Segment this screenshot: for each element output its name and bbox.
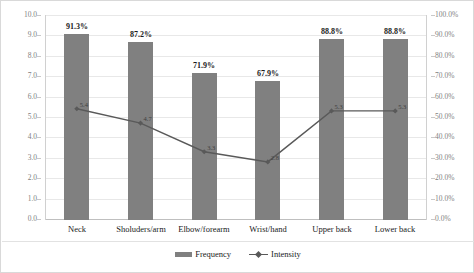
- line-value-label: 4.7: [144, 115, 152, 122]
- tick-mark: [431, 178, 435, 179]
- line-value-label: 5.3: [398, 103, 406, 110]
- tick-mark: [37, 117, 41, 118]
- tick-mark: [37, 56, 41, 57]
- x-tick-label: Upper back: [300, 223, 364, 235]
- line-value-label: 3.3: [207, 144, 215, 151]
- legend-label-intensity: Intensity: [271, 249, 301, 259]
- y-tick-right: 40.0%: [435, 133, 454, 141]
- y-tick-left: 10.0: [24, 11, 37, 19]
- tick-mark: [431, 35, 435, 36]
- y-tick-left: 3.0: [28, 154, 37, 162]
- tick-mark: [37, 178, 41, 179]
- tick-mark: [431, 76, 435, 77]
- tick-mark: [431, 56, 435, 57]
- line-value-label: 5.4: [80, 101, 88, 108]
- y-tick-right: 50.0%: [435, 113, 454, 121]
- x-tick-label: Wrist/hand: [236, 223, 300, 235]
- chart-legend: Frequency Intensity: [1, 246, 474, 262]
- x-tick-label: Lower back: [363, 223, 427, 235]
- y-tick-left: 2.0: [28, 174, 37, 182]
- y-tick-right: 10.0%: [435, 195, 454, 203]
- tick-mark: [431, 137, 435, 138]
- y-tick-right: 20.0%: [435, 174, 454, 182]
- y-tick-left: 7.0: [28, 72, 37, 80]
- y-tick-left: 9.0: [28, 31, 37, 39]
- tick-mark: [431, 15, 435, 16]
- tick-mark: [37, 76, 41, 77]
- line-value-label: 5.3: [335, 103, 343, 110]
- bar-swatch-icon: [175, 252, 192, 257]
- x-tick-label: Sholuders/arm: [109, 223, 173, 235]
- legend-item-intensity: Intensity: [249, 249, 301, 259]
- tick-mark: [37, 158, 41, 159]
- tick-mark: [37, 35, 41, 36]
- x-tick-label: Elbow/forearm: [172, 223, 236, 235]
- chart-container: 10.09.08.07.06.05.04.03.02.01.00.0 100.0…: [0, 0, 474, 273]
- tick-mark: [37, 219, 41, 220]
- legend-label-frequency: Frequency: [195, 249, 231, 259]
- line-value-label: 2.8: [271, 154, 279, 161]
- line-marker-icon: [249, 251, 268, 258]
- tick-mark: [431, 158, 435, 159]
- y-tick-right: 90.0%: [435, 31, 454, 39]
- y-tick-left: 6.0: [28, 93, 37, 101]
- intensity-marker: [74, 106, 79, 111]
- y-tick-left: 4.0: [28, 133, 37, 141]
- tick-mark: [431, 219, 435, 220]
- tick-mark: [431, 199, 435, 200]
- tick-mark: [37, 15, 41, 16]
- intensity-marker: [393, 108, 398, 113]
- tick-mark: [431, 117, 435, 118]
- intensity-line: [77, 109, 395, 162]
- y-axis-left: 10.09.08.07.06.05.04.03.02.01.00.0: [1, 15, 41, 220]
- y-tick-left: 5.0: [28, 113, 37, 121]
- y-tick-right: 0.0%: [435, 215, 451, 223]
- tick-mark: [37, 97, 41, 98]
- y-tick-left: 8.0: [28, 52, 37, 60]
- tick-mark: [37, 199, 41, 200]
- tick-mark: [431, 97, 435, 98]
- y-axis-right: 100.0%90.0%80.0%70.0%60.0%50.0%40.0%30.0…: [431, 15, 474, 220]
- y-tick-left: 1.0: [28, 195, 37, 203]
- tick-mark: [37, 137, 41, 138]
- x-axis-categories: NeckSholuders/armElbow/forearmWrist/hand…: [45, 223, 427, 239]
- plot-area: 91.3%87.2%71.9%67.9%88.8%88.8% 5.44.73.3…: [45, 15, 427, 220]
- legend-item-frequency: Frequency: [175, 249, 231, 259]
- legend-divider: [2, 241, 474, 242]
- intensity-marker: [202, 149, 207, 154]
- y-tick-left: 0.0: [28, 215, 37, 223]
- y-tick-right: 80.0%: [435, 52, 454, 60]
- y-tick-right: 30.0%: [435, 154, 454, 162]
- x-tick-label: Neck: [45, 223, 109, 235]
- intensity-marker: [138, 121, 143, 126]
- y-tick-right: 100.0%: [435, 11, 458, 19]
- y-tick-right: 60.0%: [435, 93, 454, 101]
- y-tick-right: 70.0%: [435, 72, 454, 80]
- line-series-intensity: [45, 15, 427, 220]
